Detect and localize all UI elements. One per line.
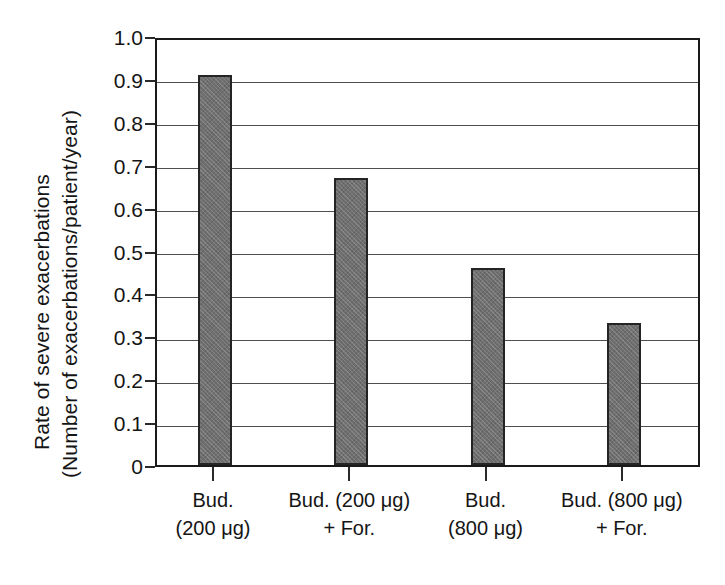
y-axis-title-line-1: Rate of severe exacerbations [30,174,54,450]
y-axis-tick-label: 0.2 [83,370,143,391]
bar [471,268,505,465]
x-axis-category-label-line-2: + For. [274,515,424,543]
x-axis-tick-mark [485,467,487,481]
y-axis-tick-mark [145,466,155,468]
x-axis-tick-mark [348,467,350,481]
x-axis-tick-mark [212,467,214,481]
x-axis-category-label-line-1: Bud. (200 μg) [274,487,424,515]
y-axis-tick-label: 0.9 [83,70,143,91]
y-axis-tick-mark [145,294,155,296]
gridline [157,297,698,298]
y-axis-tick-label: 0.5 [83,242,143,263]
y-axis-tick-label: 0 [83,456,143,477]
x-axis-category-label-line-1: Bud. [411,487,561,515]
y-axis-tick-mark [145,166,155,168]
y-axis-tick-mark [145,423,155,425]
y-axis-tick-mark [145,123,155,125]
y-axis-tick-label: 0.3 [83,327,143,348]
x-axis-tick-mark [621,467,623,481]
x-axis-category-label-line-2: (200 μg) [138,515,288,543]
y-axis-tick-mark [145,380,155,382]
y-axis-tick-label: 0.6 [83,199,143,220]
bar-chart-figure: Rate of severe exacerbations (Number of … [0,0,725,585]
x-axis-category-label: Bud.(800 μg) [411,487,561,542]
x-axis-category-label: Bud. (800 μg)+ For. [547,487,697,542]
y-axis-title: Rate of severe exacerbations (Number of … [0,0,90,500]
y-axis-tick-label: 1.0 [83,27,143,48]
y-axis-tick-label: 0.1 [83,413,143,434]
gridline [157,168,698,169]
gridline [157,254,698,255]
x-axis-category-label-line-1: Bud. [138,487,288,515]
bar [198,75,232,465]
y-axis-tick-mark [145,337,155,339]
y-axis-tick-label: 0.4 [83,284,143,305]
gridline [157,82,698,83]
y-axis-tick-mark [145,252,155,254]
y-axis-title-line-2: (Number of exacerbations/patient/year) [58,110,82,478]
x-axis-category-label: Bud.(200 μg) [138,487,288,542]
y-axis-tick-label: 0.7 [83,156,143,177]
x-axis-category-label-line-2: (800 μg) [411,515,561,543]
x-axis-category-label-line-1: Bud. (800 μg) [547,487,697,515]
x-axis-category-label: Bud. (200 μg)+ For. [274,487,424,542]
gridline [157,211,698,212]
x-axis-category-label-line-2: + For. [547,515,697,543]
gridline [157,125,698,126]
y-axis-tick-mark [145,37,155,39]
bar [607,323,641,465]
y-axis-tick-mark [145,80,155,82]
y-axis-tick-label: 0.8 [83,113,143,134]
plot-area [155,38,700,467]
y-axis-tick-mark [145,209,155,211]
bar [334,178,368,465]
